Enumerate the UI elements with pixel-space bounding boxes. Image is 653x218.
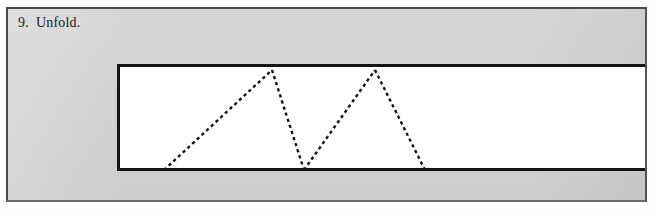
crease-4-line — [375, 70, 425, 170]
fold-crease-lines — [117, 64, 653, 174]
crease-1-line — [164, 70, 272, 170]
step-number: 9. — [18, 14, 29, 32]
crease-2-line — [272, 70, 304, 170]
step-label: Unfold. — [36, 15, 81, 30]
step-caption: 9.Unfold. — [18, 14, 80, 32]
crease-3-line — [304, 70, 375, 170]
crease-group — [164, 70, 425, 170]
scanned-page: 9.Unfold. Long horizontal paper strip wi… — [0, 0, 653, 218]
